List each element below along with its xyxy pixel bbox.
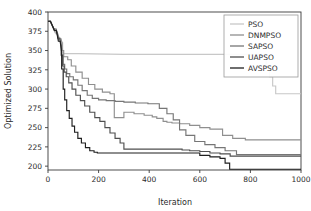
- figure: 02004006008001000 2002252502753003253503…: [0, 0, 311, 211]
- y-tick-label: 225: [28, 143, 43, 152]
- legend-label-pso: PSO: [248, 20, 263, 29]
- y-tick-label: 200: [28, 162, 43, 171]
- y-tick-label: 400: [28, 8, 43, 17]
- x-axis-label: Iteration: [158, 198, 192, 207]
- x-tick-label: 1000: [291, 175, 310, 184]
- x-tick-label: 200: [91, 175, 106, 184]
- y-tick-label: 250: [28, 123, 43, 132]
- y-tick-label: 325: [28, 66, 43, 75]
- legend[interactable]: PSODNMPSOSAPSOUAPSOAVSPSO: [224, 15, 298, 77]
- y-tick-label: 275: [28, 104, 43, 113]
- x-tick-label: 800: [243, 175, 258, 184]
- y-axis-label: Optimized Solution: [4, 53, 13, 129]
- x-tick-label: 400: [142, 175, 157, 184]
- legend-label-uapso: UAPSO: [248, 53, 274, 62]
- y-tick-label: 350: [28, 46, 43, 55]
- x-tick-label: 0: [46, 175, 51, 184]
- legend-label-sapso: SAPSO: [248, 42, 273, 51]
- convergence-plot: 02004006008001000 2002252502753003253503…: [0, 0, 311, 211]
- x-tick-label: 600: [193, 175, 208, 184]
- legend-label-dnmpso: DNMPSO: [248, 31, 281, 40]
- y-tick-label: 375: [28, 27, 43, 36]
- y-tick-label: 300: [28, 85, 43, 94]
- legend-label-avspso: AVSPSO: [248, 64, 278, 73]
